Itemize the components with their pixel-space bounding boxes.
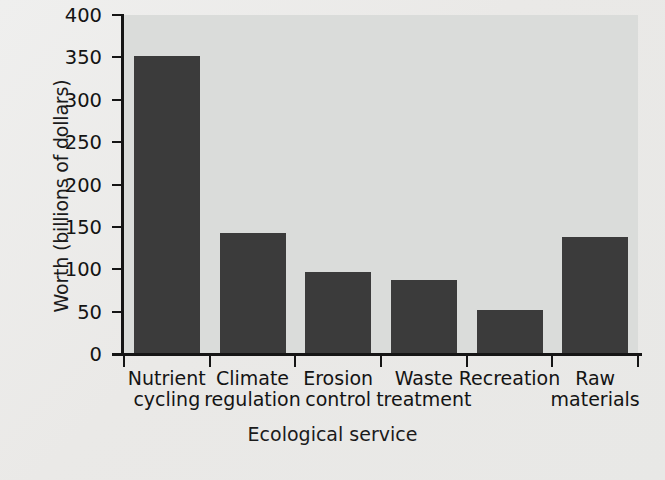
- y-tick-label: 400: [40, 4, 102, 27]
- x-tick-mark: [294, 356, 296, 367]
- x-tick-mark: [637, 356, 639, 367]
- bar: [562, 237, 628, 354]
- y-tick-label: 250: [40, 131, 102, 154]
- y-tick-label: 350: [40, 46, 102, 69]
- x-axis-title: Ecological service: [0, 423, 665, 445]
- y-tick-label: 100: [40, 258, 102, 281]
- y-tick-label: 50: [40, 300, 102, 323]
- bar: [477, 310, 543, 354]
- x-tick-mark: [123, 356, 125, 367]
- x-category-label: Rawmaterials: [543, 368, 647, 411]
- y-tick-label: 300: [40, 88, 102, 111]
- y-tick-label: 0: [40, 343, 102, 366]
- bar: [305, 272, 371, 354]
- x-tick-mark: [466, 356, 468, 367]
- x-tick-mark: [209, 356, 211, 367]
- bar: [220, 233, 286, 354]
- bar: [391, 280, 457, 354]
- x-category-label-line: materials: [543, 389, 647, 410]
- bar: [134, 56, 200, 354]
- x-axis-line: [112, 353, 642, 356]
- bar-chart-figure: Worth (billions of dollars) 050100150200…: [0, 0, 665, 480]
- x-tick-mark: [380, 356, 382, 367]
- x-tick-mark: [551, 356, 553, 367]
- y-tick-label: 200: [40, 173, 102, 196]
- y-tick-label: 150: [40, 215, 102, 238]
- x-category-label-line: Raw: [543, 368, 647, 389]
- x-category-label-line: treatment: [372, 389, 476, 410]
- bars-container: [124, 15, 638, 354]
- plot-area: [124, 15, 638, 354]
